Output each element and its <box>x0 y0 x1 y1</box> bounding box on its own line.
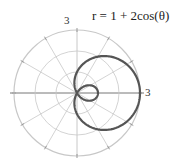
angular-gridline <box>46 93 78 148</box>
polar-plot <box>0 0 174 168</box>
angular-gridline <box>22 93 77 125</box>
angular-gridline <box>77 62 132 94</box>
angular-gridline <box>46 38 78 93</box>
angular-gridline <box>77 93 132 125</box>
r-tick-label-right: 3 <box>145 86 151 98</box>
r-tick-label-top: 3 <box>64 14 70 26</box>
angular-gridline <box>22 62 77 94</box>
chart-title: r = 1 + 2cos(θ) <box>92 8 169 24</box>
